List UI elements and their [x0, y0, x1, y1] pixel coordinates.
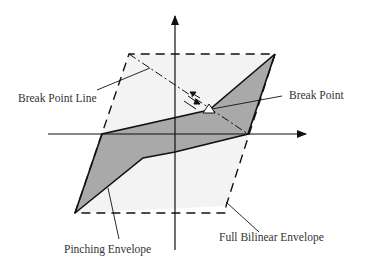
label-break-point: Break Point	[289, 89, 344, 101]
hysteresis-diagram: Break Point Line Break Point Pinching En…	[0, 0, 366, 273]
label-pinching-envelope: Pinching Envelope	[64, 243, 151, 256]
label-full-bilinear-envelope: Full Bilinear Envelope	[219, 231, 324, 244]
label-break-point-line: Break Point Line	[18, 92, 97, 104]
full-bilinear-envelope-leader	[226, 202, 259, 232]
